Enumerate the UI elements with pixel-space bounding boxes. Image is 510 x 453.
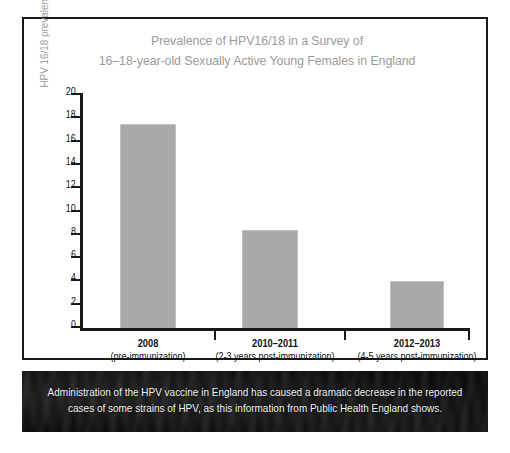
chart-figure: Prevalence of HPV16/18 in a Survey of 16…	[0, 0, 510, 453]
y-tick-label-2: 2	[71, 295, 76, 307]
y-tick-label-16: 16	[66, 132, 76, 144]
y-tick-label-6: 6	[71, 248, 76, 260]
y-tick-label-14: 14	[66, 155, 76, 167]
caption-line-1: Administration of the HPV vaccine in Eng…	[34, 384, 477, 400]
chart-frame: Prevalence of HPV16/18 in a Survey of 16…	[22, 17, 488, 360]
x-axis-line	[80, 328, 470, 331]
y-tick-label-10: 10	[66, 202, 76, 214]
y-axis-title: HPV 16/18 prevalence (%)	[38, 0, 50, 119]
y-tick-label-8: 8	[71, 225, 76, 237]
chart-title-line-1: Prevalence of HPV16/18 in a Survey of	[43, 31, 472, 51]
y-tick-label-12: 12	[66, 178, 76, 190]
chart-title: Prevalence of HPV16/18 in a Survey of 16…	[43, 31, 472, 71]
caption-band: Administration of the HPV vaccine in Eng…	[22, 371, 488, 432]
plot-area: 20 18 16 14 12 10	[80, 93, 470, 331]
y-tick-label-18: 18	[66, 108, 76, 120]
bar-2010-2011	[242, 230, 298, 328]
chart-title-line-2: 16–18-year-old Sexually Active Young Fem…	[43, 51, 472, 71]
x-category-2008-main: 2008	[102, 337, 194, 350]
x-category-2008: 2008 (pre-immunization)	[96, 337, 200, 363]
y-axis-line	[80, 93, 83, 329]
x-category-2010-2011-sub: (2-3 years post-immunization)	[209, 350, 340, 363]
bar-2008	[120, 124, 176, 328]
x-category-2012-2013-main: 2012–2013	[353, 337, 481, 350]
x-category-2012-2013-sub: (4-5 years post-immunization)	[351, 350, 482, 363]
caption-text: Administration of the HPV vaccine in Eng…	[34, 384, 477, 416]
x-axis-labels: 2008 (pre-immunization) 2010–2011 (2-3 y…	[80, 337, 470, 371]
x-category-2008-sub: (pre-immunization)	[101, 350, 195, 363]
y-tick-label-20: 20	[66, 85, 76, 97]
x-category-2010-2011: 2010–2011 (2-3 years post-immunization)	[202, 337, 348, 363]
y-tick-label-4: 4	[71, 271, 76, 283]
y-tick-label-0: 0	[71, 318, 76, 330]
caption-line-2: cases of some strains of HPV, as this in…	[34, 400, 477, 416]
bar-2012-2013	[390, 281, 444, 328]
x-category-2010-2011-main: 2010–2011	[211, 337, 339, 350]
x-category-2012-2013: 2012–2013 (4-5 years post-immunization)	[344, 337, 490, 363]
